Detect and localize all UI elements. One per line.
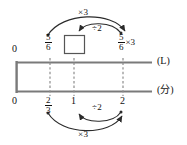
lower-tick-label-0: 0 <box>12 96 17 106</box>
operation-label-lower-times3: ×3 <box>78 130 88 139</box>
lower-axis-unit-label: (分) <box>157 85 174 95</box>
operation-label-lower-div2: ÷2 <box>92 103 102 112</box>
fraction-denominator: 6 <box>118 42 125 52</box>
fraction-numerator: 5 <box>118 33 125 42</box>
upper-tick-label-5-6-times3: 5 6 ×3 <box>118 33 135 52</box>
operation-label-upper-div2: ÷2 <box>92 24 102 33</box>
arc-lower-div2-start <box>120 111 123 114</box>
lower-tick-label-2: 2 <box>120 96 125 106</box>
lower-tick-label-2-3: 2 3 <box>45 96 52 115</box>
times3-suffix: ×3 <box>126 38 136 47</box>
arc-lower-div2 <box>79 112 121 121</box>
fraction-numerator: 2 <box>45 96 52 105</box>
fraction-denominator: 3 <box>45 105 52 115</box>
upper-tick-label-5-6: 5 6 <box>45 33 52 52</box>
answer-box <box>65 36 85 54</box>
fraction-denominator: 6 <box>45 42 52 52</box>
upper-tick-label-0: 0 <box>12 44 17 54</box>
fraction-numerator: 5 <box>45 33 52 42</box>
arc-lower-times3 <box>48 113 122 131</box>
operation-label-upper-times3: ×3 <box>78 8 88 17</box>
number-line-diagram: 0 5 6 5 6 ×3 (L) 0 2 3 1 2 (分) ×3 ÷2 ÷2 … <box>0 0 187 145</box>
upper-axis-unit-label: (L) <box>157 56 170 66</box>
diagram-canvas <box>0 0 187 145</box>
lower-tick-label-1: 1 <box>71 96 76 106</box>
